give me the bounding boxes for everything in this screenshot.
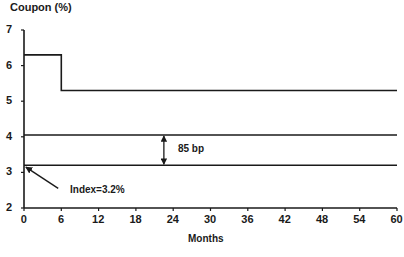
x-tick-label: 30 (204, 213, 216, 225)
x-tick-label: 60 (391, 213, 403, 225)
y-tick-label: 4 (6, 130, 12, 142)
x-tick-label: 42 (279, 213, 291, 225)
chart-title: Coupon (%) (10, 1, 72, 13)
spread-annotation-label: 85 bp (178, 143, 204, 154)
x-tick-label: 12 (92, 213, 104, 225)
y-tick-label: 2 (6, 201, 12, 213)
x-tick-label: 48 (316, 213, 328, 225)
y-tick-label: 5 (6, 94, 12, 106)
y-tick-label: 6 (6, 59, 12, 71)
x-axis-label: Months (188, 233, 224, 244)
x-tick-label: 6 (58, 213, 64, 225)
x-tick-label: 36 (241, 213, 253, 225)
index-annotation-label: Index=3.2% (70, 184, 125, 195)
y-tick-label: 7 (6, 23, 12, 35)
x-tick-label: 0 (21, 213, 27, 225)
index-pointer-arrow (26, 167, 58, 188)
x-tick-label: 24 (167, 213, 179, 225)
series-line-0 (24, 55, 397, 91)
y-tick-label: 3 (6, 165, 12, 177)
x-tick-label: 18 (129, 213, 141, 225)
x-tick-label: 54 (353, 213, 365, 225)
